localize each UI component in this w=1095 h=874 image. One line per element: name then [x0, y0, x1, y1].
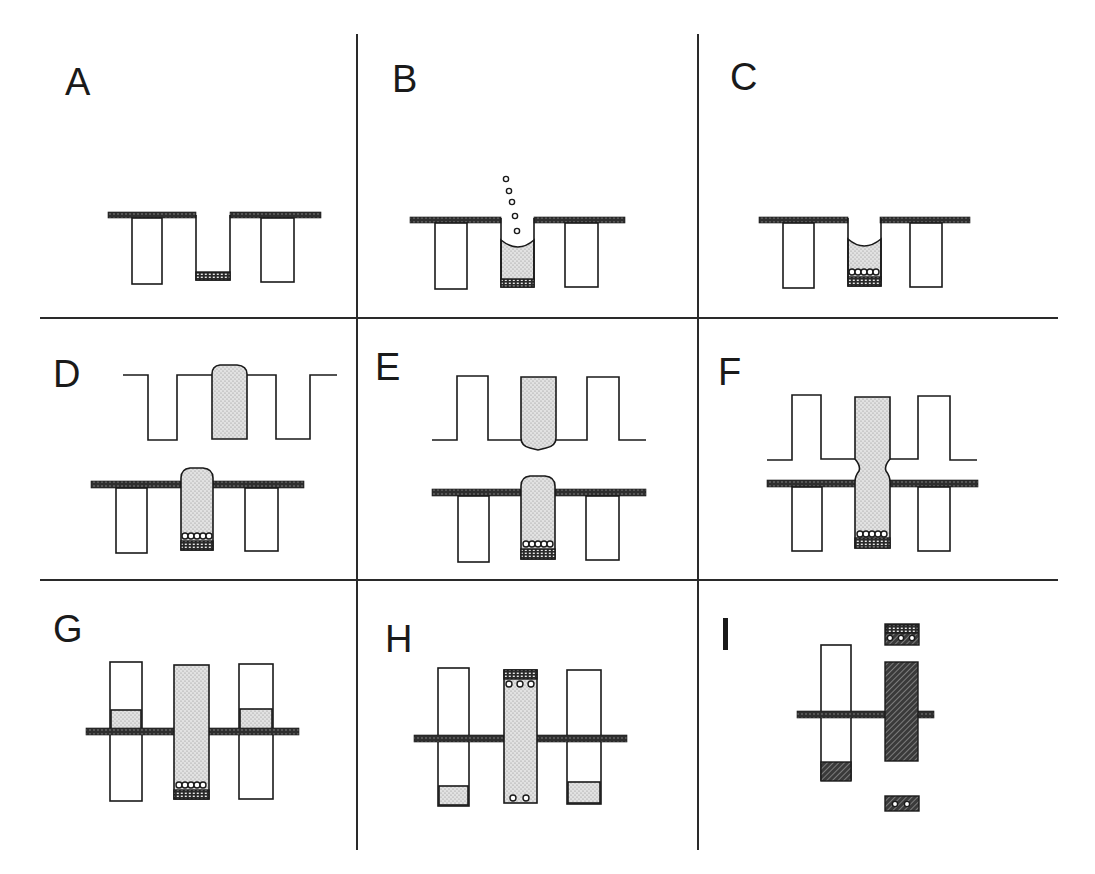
- membrane-strip: [759, 217, 848, 223]
- panel-label-a: A: [65, 61, 91, 103]
- side-well: [261, 218, 294, 282]
- bead: [869, 531, 875, 537]
- membrane-strip: [230, 212, 321, 218]
- side-well: [792, 487, 822, 551]
- bead: [509, 199, 514, 204]
- panel-a: A: [65, 61, 321, 284]
- stippled-band: [240, 709, 272, 729]
- membrane-strip: [91, 481, 181, 488]
- membrane-strip: [880, 217, 970, 223]
- bead: [514, 228, 519, 233]
- gel-fill: [501, 240, 534, 280]
- bead: [904, 801, 909, 806]
- settled-beads: [849, 269, 879, 275]
- mesh-plug: [174, 790, 209, 799]
- side-well: [565, 223, 598, 287]
- bead: [892, 801, 897, 806]
- hatched-center-block: [885, 662, 918, 761]
- bead: [194, 782, 200, 788]
- side-well: [435, 223, 467, 289]
- panel-h: H: [385, 618, 627, 806]
- panel-label-i-text: I: [723, 616, 734, 658]
- mesh-plug: [848, 277, 881, 286]
- bead: [861, 269, 867, 275]
- stippled-band: [111, 710, 141, 729]
- bead: [541, 541, 547, 547]
- settled-beads: [523, 541, 553, 547]
- panel-label-f: F: [718, 351, 741, 393]
- bead: [503, 176, 508, 181]
- bead: [881, 531, 887, 537]
- bead: [867, 269, 873, 275]
- membrane-strip: [108, 212, 196, 218]
- panel-label-h: H: [385, 618, 412, 660]
- panel-label-e: E: [375, 346, 400, 388]
- hatched-bottom: [821, 762, 851, 781]
- bead: [909, 635, 914, 640]
- panel-label-c: C: [730, 56, 757, 98]
- top-mesh-cap: [885, 624, 919, 645]
- bead: [523, 795, 529, 801]
- side-well: [132, 218, 162, 284]
- bead: [857, 531, 863, 537]
- panel-c: C: [730, 56, 970, 288]
- settled-beads: [176, 782, 206, 788]
- side-well: [918, 487, 950, 551]
- bead: [873, 269, 879, 275]
- bead: [200, 782, 206, 788]
- settled-beads: [857, 531, 887, 537]
- gel-column: [174, 665, 209, 799]
- bead: [182, 533, 188, 539]
- membrane-strip: [767, 480, 856, 487]
- side-well: [458, 496, 489, 562]
- upper-gel-plug: [212, 365, 247, 439]
- bead: [200, 533, 206, 539]
- panel-label-b: B: [392, 58, 417, 100]
- side-well: [783, 223, 814, 288]
- bead: [517, 681, 523, 687]
- panel-b: B: [392, 58, 625, 289]
- mesh-plug: [886, 625, 918, 633]
- center-well: [196, 215, 230, 280]
- stippled-band: [439, 786, 468, 805]
- bead: [188, 782, 194, 788]
- bead: [547, 541, 553, 547]
- panel-g: G: [53, 608, 299, 801]
- side-well: [586, 496, 619, 560]
- bead: [529, 541, 535, 547]
- bottom-piece: [885, 796, 919, 811]
- settled-beads: [182, 533, 212, 539]
- bead: [855, 269, 861, 275]
- panel-e: E: [375, 346, 646, 562]
- panel-d: D: [53, 353, 337, 553]
- mesh-plug: [855, 538, 890, 548]
- diagram-canvas: A B C: [0, 0, 1095, 874]
- gel-column: [504, 670, 537, 803]
- bead: [506, 188, 511, 193]
- mesh-plug: [181, 541, 213, 550]
- bead: [863, 531, 869, 537]
- bead: [194, 533, 200, 539]
- membrane-strip: [890, 480, 978, 487]
- membrane-strip: [432, 489, 521, 496]
- mesh-plug: [196, 272, 230, 280]
- panel-f: F: [718, 351, 978, 551]
- bead: [535, 541, 541, 547]
- membrane-strip: [213, 481, 304, 488]
- membrane-strip: [410, 217, 501, 223]
- bead: [182, 782, 188, 788]
- bead: [512, 213, 517, 218]
- hatched-piece: [885, 796, 919, 811]
- bead: [176, 782, 182, 788]
- top-beads: [506, 681, 534, 687]
- bead: [523, 541, 529, 547]
- side-well: [116, 488, 147, 553]
- bead: [898, 635, 903, 640]
- bead: [506, 681, 512, 687]
- mesh-plug: [521, 549, 555, 559]
- bead: [849, 269, 855, 275]
- panel-label-d: D: [53, 353, 80, 395]
- mesh-plug: [504, 670, 537, 679]
- side-well: [910, 223, 942, 287]
- panel-label-g: G: [53, 608, 83, 650]
